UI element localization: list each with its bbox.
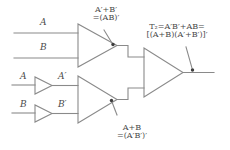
annotation-bottom-gate: A+B =(A′B′)′ — [96, 124, 168, 141]
leader-dot-output — [191, 68, 194, 71]
leader-line-output-annotation — [186, 47, 192, 68]
inverter-bottom-body — [35, 105, 52, 122]
label-bottom-input-a: A — [20, 72, 27, 81]
wire-middle-gate-output — [117, 88, 144, 100]
annotation-output-line2: [(A+B)(A′+B′)]′ — [126, 31, 228, 39]
leader-line-bottom-annotation — [112, 102, 117, 115]
label-bottom-input-b: B — [20, 100, 27, 109]
annotation-output: T₂=A′B′+AB= [(A+B)(A′+B′)]′ — [126, 23, 228, 40]
annotation-bottom-gate-line2: =(A′B′)′ — [96, 132, 168, 140]
leader-dot-top — [111, 43, 114, 46]
wire-top-gate-output — [117, 46, 144, 58]
annotation-top-gate-line2: =(AB)′ — [78, 14, 134, 22]
nand-gate-top-body — [78, 24, 117, 67]
label-top-input-a: A — [40, 18, 47, 27]
annotation-top-gate: A′+B′ =(AB)′ — [78, 6, 134, 23]
inverter-top-body — [35, 77, 52, 94]
nand-gate-output-body — [144, 48, 183, 97]
label-inverter-a-output: A′ — [58, 72, 67, 81]
logic-circuit-diagram: A B A B A′ B′ A′+B′ =(AB)′ T₂=A′B′+AB= [… — [0, 0, 230, 150]
label-inverter-b-output: B′ — [58, 100, 67, 109]
leader-dot-bottom — [110, 99, 113, 102]
label-top-input-b: B — [40, 43, 47, 52]
